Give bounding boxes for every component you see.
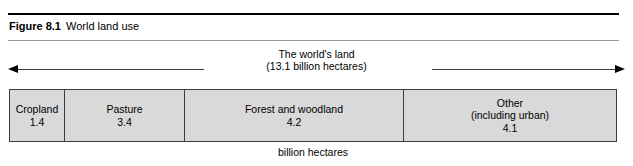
total-span-label-line1: The world's land — [8, 48, 625, 60]
total-span-label: The world's land (13.1 billion hectares) — [8, 48, 625, 72]
header-rule-thin — [8, 40, 619, 41]
segment-value: 3.4 — [117, 116, 132, 129]
segment-value: 1.4 — [30, 116, 45, 129]
land-use-bar: Cropland 1.4 Pasture 3.4 Forest and wood… — [9, 89, 617, 142]
bar-segment-other: Other (including urban) 4.1 — [404, 90, 616, 141]
segment-label: Cropland — [16, 103, 59, 116]
bar-segment-pasture: Pasture 3.4 — [65, 90, 185, 141]
total-span-label-line2: (13.1 billion hectares) — [8, 60, 625, 72]
figure-number: Figure 8.1 — [9, 20, 61, 32]
bar-segment-forest-and-woodland: Forest and woodland 4.2 — [185, 90, 404, 141]
segment-label: Other — [497, 97, 523, 110]
figure-caption: Figure 8.1World land use — [9, 19, 139, 33]
segment-sublabel: (including urban) — [471, 109, 549, 122]
segment-value: 4.1 — [503, 122, 518, 135]
segment-label: Forest and woodland — [245, 103, 343, 116]
figure-title: World land use — [66, 20, 139, 32]
bar-segment-cropland: Cropland 1.4 — [10, 90, 65, 141]
axis-unit-caption: billion hectares — [9, 146, 617, 159]
figure-container: Figure 8.1World land use The world's lan… — [0, 0, 633, 166]
segment-label: Pasture — [106, 103, 142, 116]
total-span-block: The world's land (13.1 billion hectares) — [8, 48, 625, 84]
segment-value: 4.2 — [287, 116, 302, 129]
header-rule-thick — [8, 13, 619, 15]
